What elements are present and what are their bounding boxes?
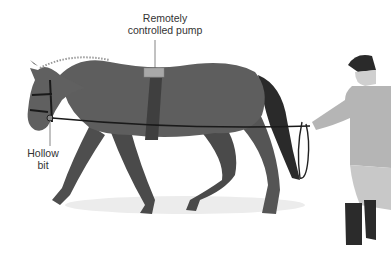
bit-label: Hollow bit <box>18 147 68 171</box>
handler-helmet <box>348 55 376 72</box>
handler-jacket <box>312 86 391 168</box>
bit-label-line1: Hollow <box>18 147 68 159</box>
horse-pump-diagram: Remotely controlled pump Hollow bit <box>0 0 391 257</box>
horse-ear <box>30 60 38 66</box>
handler-boots <box>345 200 376 245</box>
pump-unit <box>144 68 164 77</box>
pump-label-line1: Remotely <box>110 12 220 24</box>
handler-face <box>355 70 376 86</box>
bit-label-line2: bit <box>18 159 68 171</box>
illustration <box>0 0 391 257</box>
pump-label-line2: controlled pump <box>110 24 220 36</box>
line-coil <box>298 122 308 178</box>
pump-label: Remotely controlled pump <box>110 12 220 36</box>
